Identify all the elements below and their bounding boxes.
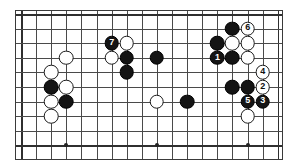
stone-move-number: 1 bbox=[215, 53, 220, 62]
grid-line-vertical bbox=[278, 10, 280, 160]
stone-white bbox=[240, 51, 255, 66]
star-point bbox=[64, 143, 68, 147]
stone-white bbox=[119, 36, 134, 51]
stone-black bbox=[225, 51, 240, 66]
stone-white bbox=[104, 51, 119, 66]
stone-black bbox=[180, 94, 195, 109]
stone-white bbox=[150, 94, 165, 109]
grid-line-vertical bbox=[36, 10, 37, 160]
numbered-stone-white: 6 bbox=[240, 21, 255, 36]
numbered-stone-black: 5 bbox=[240, 94, 255, 109]
grid-line-vertical bbox=[187, 10, 188, 160]
stone-black bbox=[119, 51, 134, 66]
stone-white bbox=[44, 65, 59, 80]
stone-black bbox=[240, 80, 255, 95]
grid-line-vertical bbox=[112, 10, 113, 160]
go-diagram-figure: 7614253 bbox=[0, 0, 296, 168]
stone-black bbox=[225, 21, 240, 36]
stone-black bbox=[44, 80, 59, 95]
numbered-stone-black: 3 bbox=[255, 94, 270, 109]
stone-white bbox=[44, 94, 59, 109]
numbered-stone-black: 7 bbox=[104, 36, 119, 51]
grid-line-vertical bbox=[21, 10, 23, 160]
grid-line-vertical bbox=[81, 10, 82, 160]
stone-move-number: 5 bbox=[245, 97, 250, 106]
stone-black bbox=[225, 80, 240, 95]
stone-move-number: 4 bbox=[260, 68, 265, 77]
grid-line-vertical bbox=[202, 10, 203, 160]
stone-move-number: 7 bbox=[109, 38, 114, 47]
stone-black bbox=[59, 94, 74, 109]
grid-line-vertical bbox=[97, 10, 98, 160]
numbered-stone-white: 2 bbox=[255, 80, 270, 95]
stone-black bbox=[210, 36, 225, 51]
stone-black bbox=[119, 65, 134, 80]
star-point bbox=[155, 143, 159, 147]
numbered-stone-black: 1 bbox=[210, 51, 225, 66]
go-board: 7614253 bbox=[15, 10, 283, 160]
stone-move-number: 3 bbox=[260, 97, 265, 106]
grid-line-vertical bbox=[157, 10, 158, 160]
stone-white bbox=[44, 109, 59, 124]
numbered-stone-white: 4 bbox=[255, 65, 270, 80]
grid-line-vertical bbox=[127, 10, 128, 160]
grid-line-horizontal bbox=[15, 145, 283, 147]
stone-black bbox=[150, 51, 165, 66]
grid-line-vertical bbox=[217, 10, 218, 160]
grid-line-vertical bbox=[142, 10, 143, 160]
stone-white bbox=[225, 36, 240, 51]
stone-white bbox=[59, 51, 74, 66]
stone-white bbox=[240, 36, 255, 51]
stone-move-number: 6 bbox=[245, 24, 250, 33]
stone-white bbox=[59, 80, 74, 95]
star-point bbox=[246, 143, 250, 147]
grid-line-vertical bbox=[172, 10, 173, 160]
stone-white bbox=[240, 109, 255, 124]
grid-line-horizontal bbox=[15, 14, 283, 16]
stone-move-number: 2 bbox=[260, 82, 265, 91]
grid-line-horizontal bbox=[15, 131, 283, 132]
